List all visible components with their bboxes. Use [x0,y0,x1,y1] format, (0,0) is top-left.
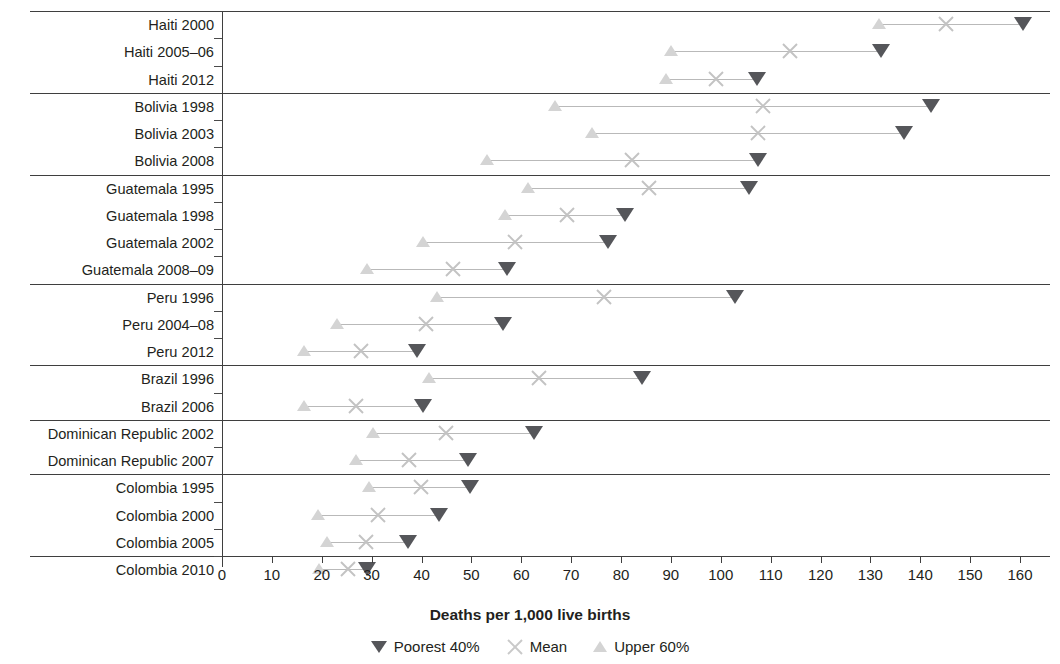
mean-x-icon [707,70,725,88]
group-separator-bolivia [30,93,1050,94]
category-axis-tick [214,393,222,394]
mean-x-icon [506,233,524,251]
category-axis-tick [214,502,222,503]
upper60-triangle-up-icon [349,454,363,465]
poorest40-triangle-down-icon [430,508,448,522]
category-axis-tick [214,66,222,67]
upper60-triangle-up-icon [320,536,334,547]
legend-label: Poorest 40% [394,638,480,655]
legend-item: Mean [506,638,568,655]
x-icon [506,638,523,655]
x-axis-tick [621,556,622,563]
category-label: Haiti 2005–06 [0,44,214,60]
group-separator-peru [30,284,1050,285]
range-connector-line [592,133,904,134]
x-axis-tick [771,556,772,563]
x-axis-tick [970,556,971,563]
category-label: Guatemala 2002 [0,235,214,251]
mean-x-icon [749,124,767,142]
x-axis-tick [222,556,223,563]
poorest40-triangle-down-icon [408,344,426,358]
poorest40-triangle-down-icon [633,371,651,385]
x-axis-tick [422,556,423,563]
poorest40-triangle-down-icon [599,235,617,249]
category-label: Brazil 2006 [0,399,214,415]
upper60-triangle-up-icon [548,100,562,111]
mean-x-icon [347,397,365,415]
category-label: Peru 1996 [0,290,214,306]
upper60-triangle-up-icon [521,182,535,193]
poorest40-triangle-down-icon [895,126,913,140]
poorest40-triangle-down-icon [922,99,940,113]
poorest40-triangle-down-icon [616,208,634,222]
upper60-triangle-up-icon [659,73,673,84]
group-separator-colombia [30,474,1050,475]
category-label: Dominican Republic 2007 [0,453,214,469]
category-axis-tick [214,338,222,339]
x-axis-tick [571,556,572,563]
category-axis-tick [214,229,222,230]
mean-x-icon [369,506,387,524]
category-label: Guatemala 2008–09 [0,262,214,278]
x-axis-tick-label: 10 [250,566,294,583]
x-axis-tick-label: 80 [599,566,643,583]
category-label: Bolivia 2003 [0,126,214,142]
category-label: Guatemala 1995 [0,181,214,197]
category-label: Brazil 1996 [0,371,214,387]
poorest40-triangle-down-icon [399,535,417,549]
poorest40-triangle-down-icon [494,317,512,331]
poorest40-triangle-down-icon [525,426,543,440]
chart-legend: Poorest 40%MeanUpper 60% [0,638,1060,655]
mean-x-icon [417,315,435,333]
upper60-triangle-up-icon [362,481,376,492]
upper60-triangle-up-icon [416,236,430,247]
poorest40-triangle-down-icon [461,480,479,494]
legend-label: Mean [530,638,568,655]
x-axis-tick-label: 70 [549,566,593,583]
x-axis-title: Deaths per 1,000 live births [0,606,1060,624]
mean-x-icon [530,369,548,387]
poorest40-triangle-down-icon [872,44,890,58]
x-axis-tick-label: 130 [848,566,892,583]
category-label: Peru 2012 [0,344,214,360]
upper60-triangle-up-icon [297,345,311,356]
mean-x-icon [781,42,799,60]
group-separator-haiti [30,11,1050,12]
range-connector-line [671,51,881,52]
mean-x-icon [412,478,430,496]
triangle-up-icon [593,641,607,652]
upper60-triangle-up-icon [872,18,886,29]
category-axis-tick [214,202,222,203]
category-label: Bolivia 1998 [0,99,214,115]
poorest40-triangle-down-icon [749,153,767,167]
upper60-triangle-up-icon [498,209,512,220]
x-axis-tick-label: 40 [400,566,444,583]
group-separator-dominican-republic [30,420,1050,421]
group-separator-guatemala [30,175,1050,176]
x-axis-tick [671,556,672,563]
category-label: Colombia 2000 [0,508,214,524]
poorest40-triangle-down-icon [498,262,516,276]
legend-item: Upper 60% [593,638,689,655]
mean-x-icon [400,451,418,469]
upper60-triangle-up-icon [360,263,374,274]
x-axis-tick-label: 150 [948,566,992,583]
x-axis-tick-label: 100 [699,566,743,583]
x-axis-tick-label: 90 [649,566,693,583]
upper60-triangle-up-icon [422,372,436,383]
poorest40-triangle-down-icon [740,181,758,195]
upper60-triangle-up-icon [480,154,494,165]
x-axis-tick [322,556,323,563]
mean-x-icon [357,533,375,551]
mean-x-icon [595,288,613,306]
poorest40-triangle-down-icon [748,72,766,86]
mean-x-icon [558,206,576,224]
poorest40-triangle-down-icon [459,453,477,467]
x-axis-tick [521,556,522,563]
inequality-child-mortality-chart: Haiti 2000Haiti 2005–06Haiti 2012Bolivia… [0,0,1060,664]
mean-x-icon [937,15,955,33]
mean-x-icon [623,151,641,169]
poorest40-triangle-down-icon [1014,17,1032,31]
upper60-triangle-up-icon [366,427,380,438]
x-axis-tick [471,556,472,563]
